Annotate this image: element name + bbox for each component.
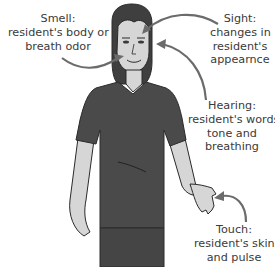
smell-line-2: breath odor — [8, 40, 108, 54]
sight-line-1: changes in — [210, 26, 270, 40]
right-eye — [138, 41, 144, 44]
hearing-label: Hearing: resident's words, tone and brea… — [188, 99, 275, 154]
sight-label: Sight: changes in resident's appearnce — [210, 12, 270, 67]
smell-arrow — [62, 58, 118, 68]
left-arm — [70, 138, 94, 236]
left-eye — [123, 41, 129, 44]
hearing-line-2: tone and — [188, 127, 275, 141]
hearing-title: Hearing: — [188, 99, 275, 113]
pants — [100, 228, 164, 267]
smell-title: Smell: — [8, 12, 108, 26]
touch-label: Touch: resident's skin and pulse — [194, 223, 274, 264]
sight-arrow — [146, 15, 218, 30]
touch-line-1: resident's skin — [194, 237, 274, 251]
touch-line-2: and pulse — [194, 251, 274, 265]
right-hand — [190, 184, 216, 214]
sight-title: Sight: — [210, 12, 270, 26]
touch-title: Touch: — [194, 223, 274, 237]
sight-line-3: appearnce — [210, 53, 270, 67]
sight-line-2: resident's — [210, 40, 270, 54]
hearing-arrowhead-icon — [156, 39, 166, 49]
touch-arrow — [222, 196, 246, 222]
hearing-line-3: breathing — [188, 140, 275, 154]
smell-line-1: resident's body or — [8, 26, 108, 40]
smell-label: Smell: resident's body or breath odor — [8, 12, 108, 53]
hearing-line-1: resident's words, — [188, 113, 275, 127]
